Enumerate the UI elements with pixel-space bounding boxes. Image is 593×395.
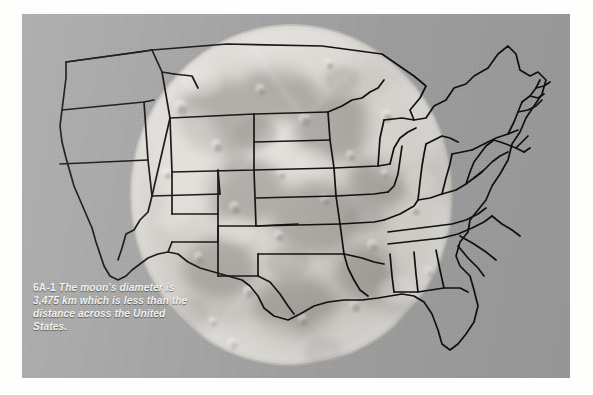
figure-moon-vs-usa: 6A-1 The moon's diameter is 3,475 km whi…: [0, 0, 593, 395]
photograph-plate: [22, 14, 570, 378]
usa-outline-map-icon: [22, 14, 570, 378]
